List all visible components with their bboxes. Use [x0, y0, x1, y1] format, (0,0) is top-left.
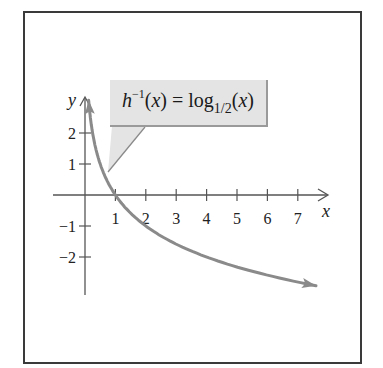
y-axis-label: y [66, 90, 76, 110]
x-tick-label: 1 [111, 210, 119, 227]
log-base: 1/2 [214, 101, 232, 116]
x-tick-label: 7 [294, 210, 302, 227]
plot-area: 1234567−2−112 x y [0, 0, 383, 368]
log-label: log [188, 89, 214, 111]
equals-sign: = [172, 89, 183, 111]
callout-equation: h−1(x) = log1/2(x) [110, 89, 266, 112]
inverse-exponent: −1 [132, 87, 145, 101]
function-callout: h−1(x) = log1/2(x) [110, 80, 268, 127]
log-var: x [238, 89, 247, 111]
y-tick-label: 2 [68, 125, 76, 142]
y-tick-label: 1 [68, 156, 76, 173]
x-tick-label: 6 [263, 210, 271, 227]
x-axis-label: x [321, 201, 330, 221]
x-tick-label: 3 [172, 210, 180, 227]
y-tick-label: −2 [59, 249, 76, 266]
fn-var: x [151, 89, 160, 111]
fn-name: h [122, 89, 132, 111]
x-tick-label: 4 [203, 210, 211, 227]
y-tick-label: −1 [59, 218, 76, 235]
x-tick-label: 5 [233, 210, 241, 227]
